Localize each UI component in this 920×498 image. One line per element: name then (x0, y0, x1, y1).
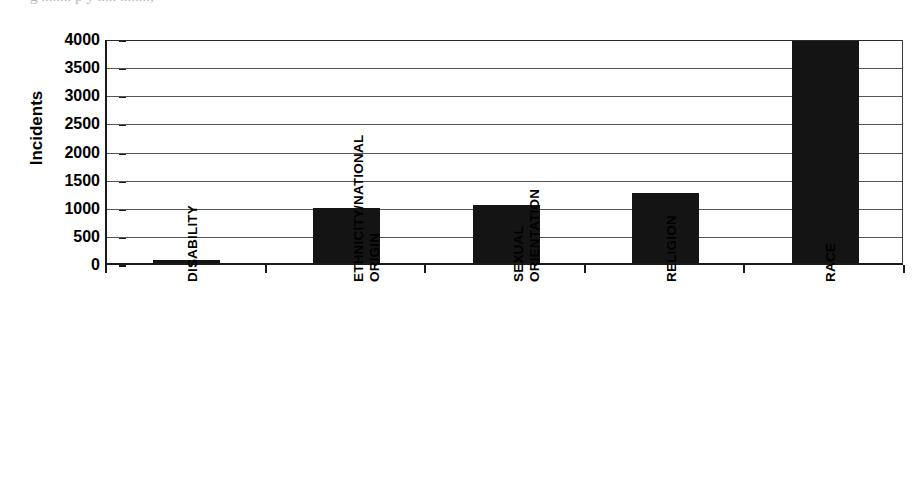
bar[interactable] (792, 41, 859, 263)
x-axis-tick-mark (903, 265, 905, 273)
gridline (107, 153, 902, 154)
y-axis-tick-label: 3000 (30, 88, 100, 104)
x-axis-category-label-line: SEXUAL (511, 226, 526, 282)
gridline (107, 68, 902, 69)
gridline (107, 181, 902, 182)
x-axis-tick-mark (743, 265, 745, 273)
y-axis-tick-label: 3500 (30, 60, 100, 76)
x-axis-category-label-line: RELIGION (664, 215, 679, 282)
x-axis-category-label-line: RACE (823, 243, 838, 282)
y-axis-tick-label: 500 (30, 229, 100, 245)
x-axis-tick-mark (265, 265, 267, 273)
x-axis-tick-mark (584, 265, 586, 273)
x-axis-category-label-line: ORIENTATION (527, 189, 543, 282)
x-axis-category-label: ETHNICITY/NATIONALORIGIN (351, 135, 383, 282)
x-axis-category-label-line: DISABILITY (185, 205, 200, 282)
y-axis-tick-label: 1500 (30, 173, 100, 189)
x-axis-category-label: DISABILITY (185, 205, 200, 282)
y-axis-tick-label: 4000 (30, 32, 100, 48)
x-axis-category-label-line: ORIGIN (367, 135, 383, 282)
x-axis-category-label: RELIGION (664, 215, 679, 282)
y-axis-tick-group: 05001000150020002500300035004000 (20, 0, 100, 498)
x-axis-category-label: RACE (823, 243, 838, 282)
x-axis-tick-mark (105, 265, 107, 273)
x-axis-category-label-line: ETHNICITY/NATIONAL (351, 135, 366, 282)
gridline (107, 40, 902, 41)
y-axis-tick-label: 0 (30, 257, 100, 273)
gridline (107, 124, 902, 125)
y-axis-tick-mark (119, 265, 126, 267)
y-axis-tick-label: 1000 (30, 201, 100, 217)
y-axis-tick-label: 2500 (30, 116, 100, 132)
y-axis-tick-label: 2000 (30, 145, 100, 161)
plot-area (105, 40, 903, 265)
bar-chart: Incidents 050010001500200025003000350040… (0, 0, 920, 498)
x-axis-tick-mark (424, 265, 426, 273)
gridline (107, 96, 902, 97)
x-axis-category-label: SEXUALORIENTATION (511, 189, 543, 282)
